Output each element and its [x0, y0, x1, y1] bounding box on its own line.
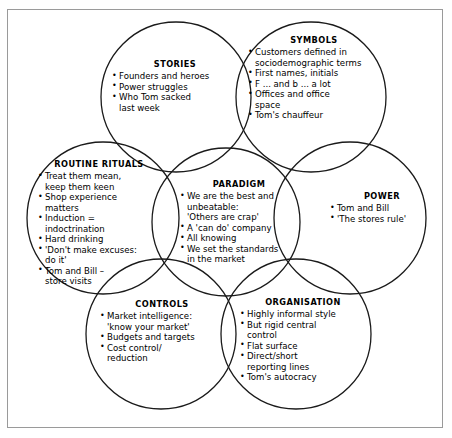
node-symbols-title: SYMBOLS: [248, 36, 380, 45]
node-paradigm: PARADIGM We are the best andunbeatable:'…: [180, 180, 298, 265]
node-routine-rituals: ROUTINE RITUALS Treat them mean,keep the…: [38, 160, 160, 287]
node-power-title: POWER: [330, 192, 434, 201]
list-item: F ... and b ... a lot: [248, 79, 380, 89]
list-item: Power struggles: [112, 82, 238, 92]
list-item: Budgets and targets: [100, 332, 224, 342]
node-controls: CONTROLS Market intelligence:'know your …: [100, 300, 224, 364]
node-power: POWER Tom and Bill 'The stores rule': [330, 192, 434, 224]
list-item: Highly informal style: [240, 309, 366, 319]
list-item: Who Tom sackedlast week: [112, 92, 238, 113]
list-item: First names, initials: [248, 68, 380, 78]
node-symbols-list: Customers defined insociodemographic ter…: [248, 47, 380, 120]
list-item: Offices and officespace: [248, 89, 380, 110]
list-item: Market intelligence:'know your market': [100, 311, 224, 332]
list-item: Induction =indoctrination: [38, 213, 160, 234]
list-item: Tom and Bill: [330, 203, 434, 213]
node-organisation: ORGANISATION Highly informal style But r…: [240, 298, 366, 383]
node-organisation-list: Highly informal style But rigid centralc…: [240, 309, 366, 382]
list-item: 'The stores rule': [330, 214, 434, 224]
node-stories-list: Founders and heroes Power struggles Who …: [112, 71, 238, 113]
node-paradigm-title: PARADIGM: [180, 180, 298, 189]
node-power-list: Tom and Bill 'The stores rule': [330, 203, 434, 224]
list-item: Tom's autocracy: [240, 372, 366, 382]
node-routine-rituals-title: ROUTINE RITUALS: [38, 160, 160, 169]
list-item: Customers defined insociodemographic ter…: [248, 47, 380, 68]
node-routine-rituals-list: Treat them mean,keep them keen Shop expe…: [38, 171, 160, 286]
list-item: We are the best andunbeatable:'Others ar…: [180, 191, 298, 222]
node-organisation-title: ORGANISATION: [240, 298, 366, 307]
list-item: But rigid centralcontrol: [240, 320, 366, 341]
list-item: 'Don't make excuses:do it': [38, 245, 160, 266]
node-stories: STORIES Founders and heroes Power strugg…: [112, 60, 238, 113]
node-stories-title: STORIES: [112, 60, 238, 69]
node-symbols: SYMBOLS Customers defined insociodemogra…: [248, 36, 380, 121]
list-item: A 'can do' company: [180, 223, 298, 233]
node-controls-list: Market intelligence:'know your market' B…: [100, 311, 224, 363]
list-item: Founders and heroes: [112, 71, 238, 81]
list-item: Cost control/reduction: [100, 343, 224, 364]
list-item: Tom and Bill –store visits: [38, 266, 160, 287]
node-paradigm-list: We are the best andunbeatable:'Others ar…: [180, 191, 298, 264]
list-item: Hard drinking: [38, 234, 160, 244]
list-item: Tom's chauffeur: [248, 110, 380, 120]
list-item: We set the standardsin the market: [180, 244, 298, 265]
list-item: Shop experiencematters: [38, 192, 160, 213]
list-item: Treat them mean,keep them keen: [38, 171, 160, 192]
list-item: Direct/shortreporting lines: [240, 351, 366, 372]
list-item: All knowing: [180, 233, 298, 243]
node-controls-title: CONTROLS: [100, 300, 224, 309]
list-item: Flat surface: [240, 341, 366, 351]
